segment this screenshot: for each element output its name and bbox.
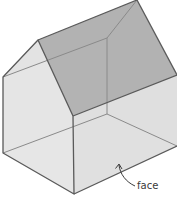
prism-drawing — [0, 0, 177, 204]
house-prism-diagram: face — [0, 0, 177, 204]
face-label: face — [137, 181, 158, 191]
